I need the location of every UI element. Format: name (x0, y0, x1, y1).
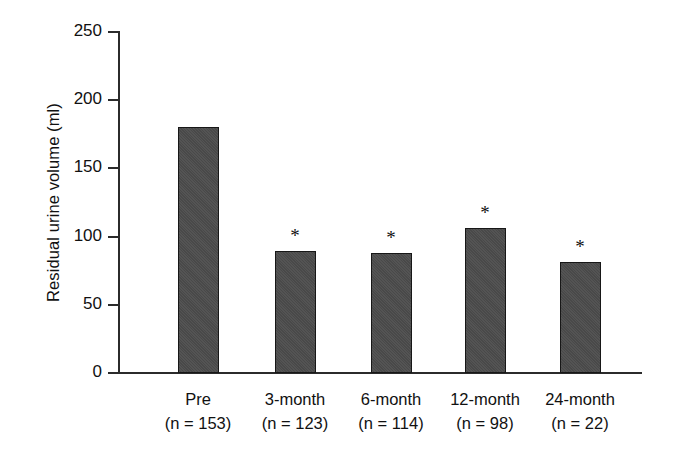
significance-star-3-month: * (280, 226, 310, 245)
significance-star-6-month: * (376, 228, 406, 247)
bar-12-month (465, 228, 506, 373)
y-tick-100 (108, 236, 118, 238)
significance-star-12-month: * (470, 203, 500, 222)
y-tick-150 (108, 167, 118, 169)
bar-pre (178, 127, 219, 373)
y-tick-0 (108, 372, 118, 374)
y-tick-label-100: 100 (36, 226, 102, 246)
y-tick-250 (108, 31, 118, 33)
y-tick-label-200: 200 (36, 89, 102, 109)
x-axis-label-sample-size: (n = 22) (520, 412, 640, 436)
significance-star-24-month: * (565, 237, 595, 256)
bar-24-month (560, 262, 601, 373)
y-axis-line (118, 31, 120, 374)
y-tick-label-250: 250 (36, 21, 102, 41)
x-axis-label-name: 24-month (520, 388, 640, 412)
y-tick-50 (108, 304, 118, 306)
bar-chart-figure: Residual urine volume (ml) 250 200 150 1… (0, 0, 681, 471)
bar-3-month (275, 251, 316, 373)
x-axis-label-24-month: 24-month(n = 22) (520, 388, 640, 436)
y-tick-label-150: 150 (36, 157, 102, 177)
y-tick-label-50: 50 (36, 294, 102, 314)
y-tick-200 (108, 99, 118, 101)
bar-6-month (371, 253, 412, 373)
y-tick-label-0: 0 (36, 362, 102, 382)
